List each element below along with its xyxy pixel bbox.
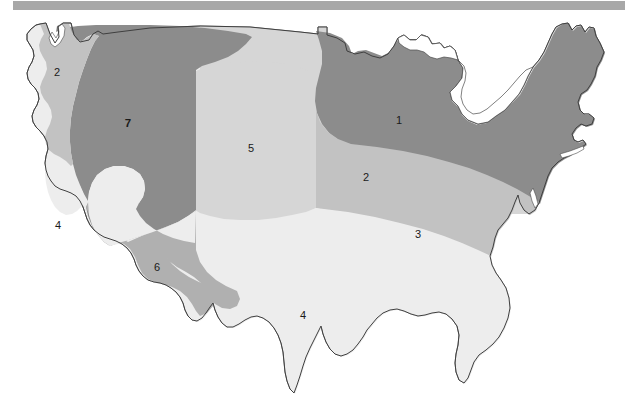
us-climate-zone-map: 7 2 5 1 2 3 4 6 4 [0, 10, 635, 403]
zone-label-6: 6 [154, 261, 160, 273]
page-root: 7 2 5 1 2 3 4 6 4 [0, 0, 635, 403]
zone-label-3: 3 [415, 228, 421, 240]
zone-label-1: 1 [396, 114, 402, 126]
zone-label-4-south: 4 [300, 309, 306, 321]
zone-label-5: 5 [248, 142, 254, 154]
zone-label-4-california: 4 [55, 219, 61, 231]
map-container: 7 2 5 1 2 3 4 6 4 [0, 10, 635, 403]
header-band [13, 1, 625, 10]
zone-label-2-northwest: 2 [54, 66, 60, 78]
zone-5-slab [195, 61, 316, 220]
zone-label-7: 7 [125, 117, 131, 129]
zone-label-2-midband: 2 [363, 171, 369, 183]
